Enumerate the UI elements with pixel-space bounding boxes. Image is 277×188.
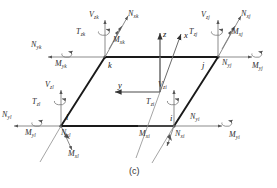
Nxl-axis [40, 126, 61, 162]
label-Myk: Myk [55, 60, 66, 68]
label-Tzi: Tzi [146, 98, 154, 106]
Myl-curl [32, 121, 42, 127]
label-Tzj: Tzj [189, 28, 197, 36]
Tzi-curl [167, 99, 178, 105]
axis-label-z: z [163, 29, 166, 39]
label-Tzl: Tzl [32, 98, 40, 106]
label-Nyj: Nyj [222, 59, 231, 67]
label-Vzl: Vzl [45, 81, 54, 89]
label-Vzk: Vzk [89, 11, 98, 19]
label-Vzi: Vzi [158, 81, 167, 89]
label-Nxi: Nxi [175, 130, 184, 138]
Myj-curl [252, 52, 262, 58]
label-Nyi: Nyi [190, 113, 199, 121]
label-Myj: Myj [252, 62, 263, 70]
node-label-j: j [202, 60, 204, 70]
label-Mxk: Mxk [113, 36, 124, 44]
Tzk-curl [98, 29, 109, 35]
figure-caption: (c) [129, 166, 140, 176]
label-Nyl: Nyl [2, 111, 11, 119]
label-Tzk: Tzk [76, 28, 85, 36]
axis-label-x: x [184, 30, 188, 40]
label-Nxj: Nxj [241, 10, 250, 18]
label-Myl: Myl [25, 129, 36, 137]
Myk-curl [62, 52, 72, 58]
node-label-i: i [170, 113, 172, 123]
label-Mxi: Mxi [139, 130, 150, 138]
axis-label-y: y [118, 80, 122, 90]
label-Mxl: Mxl [68, 150, 79, 158]
label-Mxj: Mxj [232, 28, 243, 36]
Myi-curl [222, 121, 232, 127]
Nxi-axis [152, 126, 174, 163]
node-j-vectors [211, 16, 261, 59]
label-Nxl: Nxl [61, 129, 70, 137]
Tzj-curl [211, 29, 222, 35]
label-Nyk: Nyk [31, 41, 41, 49]
node-label-k: k [108, 60, 112, 70]
label-Nxk: Nxk [128, 10, 138, 18]
Tzl-curl [54, 99, 65, 105]
label-Vzj: Vzj [201, 11, 210, 19]
node-label-l: l [66, 112, 68, 122]
label-Myi: Myi [229, 131, 240, 139]
